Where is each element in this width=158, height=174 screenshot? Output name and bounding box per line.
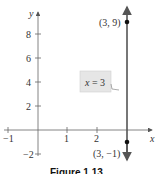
tick-label-y-2: 2: [26, 101, 31, 112]
tick-label-x-neg1: −1: [3, 133, 14, 144]
figure-caption: Figure 1.13: [50, 167, 103, 174]
point-label-3-9: (3, 9): [99, 17, 121, 29]
point-3-neg1: [125, 140, 130, 145]
tick-label-x-2: 2: [94, 133, 99, 144]
x-axis-label: x: [149, 133, 155, 144]
tick-label-y-neg2: −2: [23, 149, 34, 160]
graph-figure: −1 1 2 8 6 4 2 −2 x y (3, 9) (3, −1) x =…: [0, 0, 158, 174]
svg-text:x = 3: x = 3: [84, 77, 105, 88]
point-3-9: [125, 20, 130, 25]
y-axis-label: y: [28, 8, 34, 19]
callout-value: = 3: [89, 77, 105, 88]
tick-label-x-1: 1: [64, 133, 69, 144]
tick-label-y-6: 6: [26, 53, 31, 64]
point-label-3-neg1: (3, −1): [93, 148, 120, 160]
equation-callout: x = 3: [80, 71, 119, 92]
tick-label-y-8: 8: [26, 29, 31, 40]
tick-label-y-4: 4: [26, 77, 31, 88]
